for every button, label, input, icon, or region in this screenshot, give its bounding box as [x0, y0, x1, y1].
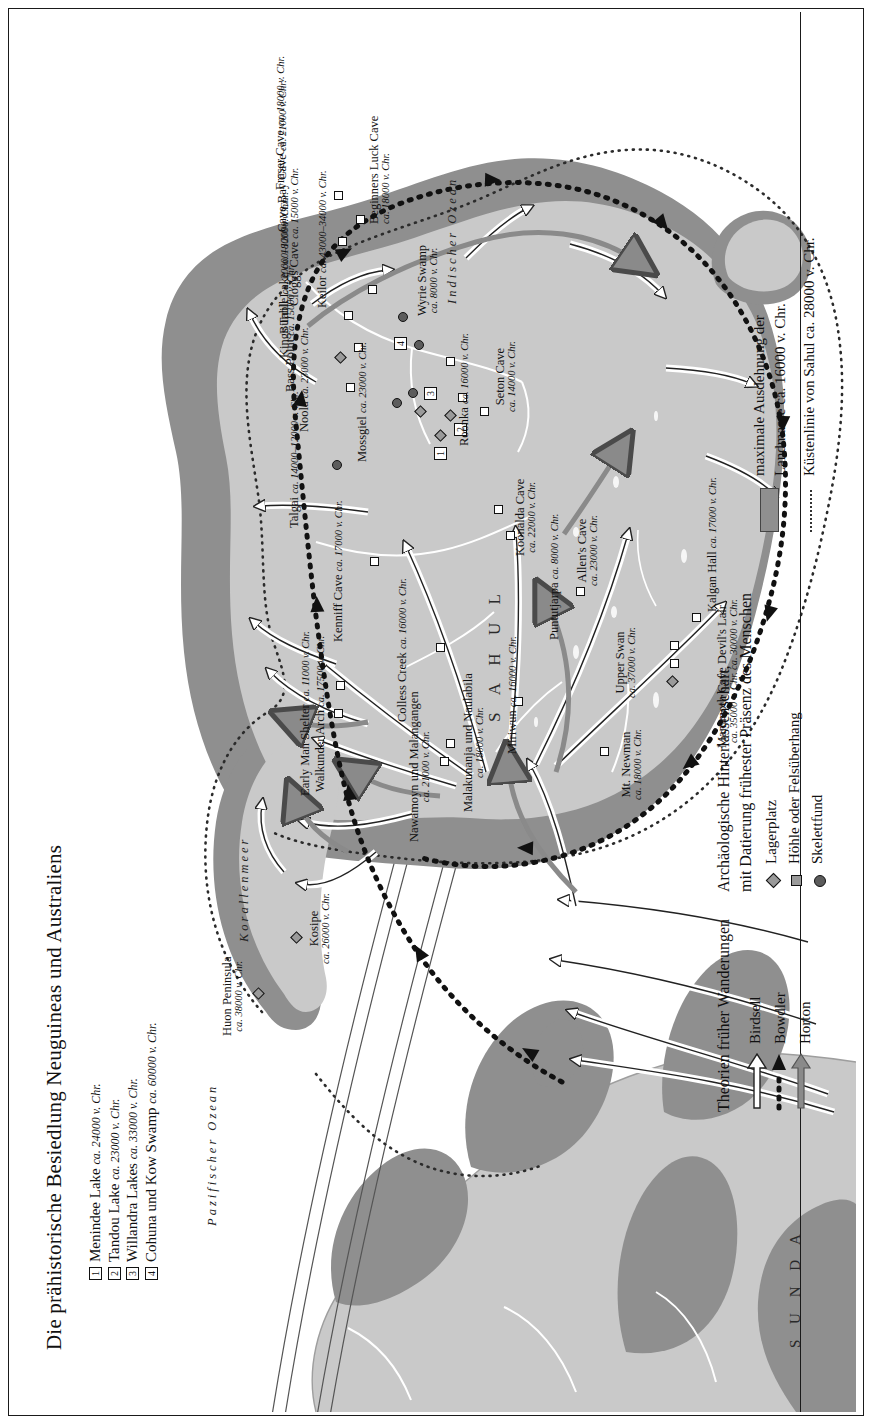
site-label-puntutjarpa: Puntutjarpa ca. 8000 v. Chr. [548, 514, 561, 640]
site-label-cloggs-cave: Cloggs Cave ca. 15000 v. Chr. [288, 168, 301, 306]
site-label-kalgan-hall: Kalgan Hall ca. 17000 v. Chr. [706, 477, 719, 612]
legend-label-coastline: Küstenlinie von Sahul ca. 28000 v. Chr. [802, 237, 818, 476]
site-marker-koonalda-cave[interactable] [494, 505, 503, 514]
legend-heading-finds-line1: Archäologische Hinterlassenschaft, [716, 665, 733, 892]
numbered-site-list: 1Menindee Lake ca. 24000 v. Chr. 2Tandou… [88, 1023, 159, 1280]
site-label-mossgiel: Mossgiel ca. 23000 v. Chr. [356, 342, 369, 462]
site-number-box: 3 [126, 1267, 139, 1280]
label-pacific-ocean: Pazifischer Ozean [206, 1084, 219, 1226]
site-label-roonka: Roonka ca. 16000 v. Chr. [458, 333, 471, 446]
site-marker-mossgiel[interactable] [392, 398, 402, 408]
site-number-box: 2 [108, 1267, 121, 1280]
site-marker-mt-newman[interactable] [600, 747, 609, 756]
site-number-box: 4 [145, 1267, 158, 1280]
site-marker-noola[interactable] [346, 383, 355, 392]
map-page: Die prähistorische Besiedlung Neuguineas… [0, 0, 872, 1424]
site-marker-cloggs-cave[interactable] [368, 285, 377, 294]
site-label-noola: Noola ca. 23000 v. Chr. [298, 327, 311, 432]
site-label-upper-swan: Upper Swanca. 37000 v. Chr. [614, 627, 638, 698]
numbered-list-item: 1Menindee Lake ca. 24000 v. Chr. [88, 1023, 104, 1280]
white-arrow-icon [748, 1054, 766, 1108]
site-marker-burrill-lake[interactable] [344, 311, 353, 320]
site-label-colless-creek: Colless Creek ca. 16000 v. Chr. [396, 578, 409, 722]
legend-square-marker-icon [791, 875, 802, 886]
site-label-beginners-luck-cave: Beginners Luck Caveca. 18000 v. Chr. [368, 116, 392, 224]
legend-label-birdsell: Birdsell [748, 997, 764, 1045]
site-marker-nawamoyn[interactable] [440, 757, 449, 766]
map-stage: Die prähistorische Besiedlung Neuguineas… [16, 12, 856, 1412]
site-marker-fraser-cave[interactable] [334, 191, 343, 200]
site-number-marker-1[interactable]: 1 [434, 447, 447, 460]
site-marker-keilor[interactable] [398, 312, 408, 322]
site-label-koonalda-cave: Koonalda Caveca. 22000 v. Chr. [514, 479, 538, 556]
legend-label-lagerplatz: Lagerplatz [764, 800, 780, 864]
page-title: Die prähistorische Besiedlung Neuguineas… [44, 845, 66, 1350]
legend-label-bowdler: Bowdler [773, 992, 789, 1044]
legend-heading-migration: Theorien früher Wanderungen [716, 919, 733, 1112]
site-marker-walkunder-arch[interactable] [336, 681, 345, 690]
legend-heading-finds-line2: mit Datierung frühester Präsenz des Mens… [738, 593, 755, 892]
site-marker-cave-bay-cave[interactable] [338, 237, 347, 246]
numbered-list-item: 4Cohuna und Kow Swamp ca. 60000 v. Chr. [144, 1023, 160, 1280]
site-marker-talgai[interactable] [332, 460, 342, 470]
site-marker-beginners-luck-cave[interactable] [356, 215, 365, 224]
numbered-list-item: 3Willandra Lakes ca. 33000 v. Chr. [125, 1023, 141, 1280]
site-label-fraser-cave: Fraser Cave ca. 18000 v. Chr. [274, 56, 287, 190]
site-label-huon-peninsula: Huon Peninsulaca. 38000 v. Chr. [221, 956, 245, 1036]
legend-circle-marker-icon [814, 875, 826, 887]
site-marker-puntutjarpa[interactable] [576, 587, 585, 596]
legend-label-skelettfund: Skelettfund [810, 795, 826, 864]
site-number-marker-4[interactable]: 4 [394, 337, 407, 350]
site-marker-cohuna-kow-swamp[interactable] [414, 340, 424, 350]
legend-label-landmass-line1: maximale Ausdehnung der [752, 315, 768, 476]
site-label-mt-newman: Mt. Newmanca. 18000 v. Chr. [620, 729, 644, 800]
site-label-walkunder-arch: Walkunder Arch ca. 17500 v. Chr. [314, 636, 327, 792]
legend-coastline-dots-icon [810, 490, 812, 532]
site-marker-wyrie-swamp[interactable] [446, 357, 455, 366]
site-number-box: 1 [89, 1267, 102, 1280]
site-label-allens-cave: Allen's Caveca. 23000 v. Chr. [576, 515, 600, 586]
site-marker-early-man-shelter[interactable] [334, 709, 343, 718]
label-coral-sea: Korallenmeer [238, 837, 251, 942]
label-indian-ocean: Indischer Ozean [446, 177, 459, 304]
site-marker-willandra-lakes-skeleton[interactable] [408, 388, 418, 398]
site-marker-seton-cave[interactable] [480, 407, 489, 416]
site-label-wyrie-swamp: Wyrie Swampca. 8000 v. Chr. [416, 245, 440, 316]
site-label-nawamoyn-malangangen: Nawamoyn und Malangangenca. 21000 v. Chr… [408, 691, 432, 842]
legend-landmass-swatch [760, 488, 779, 532]
site-marker-malakunanja[interactable] [446, 739, 455, 748]
legend-panel [812, 38, 856, 1378]
site-marker-devils-lair[interactable] [670, 641, 679, 650]
site-label-malakunanja-naulabila: Malakunanja und Naulabilaca. 18000 v. Ch… [462, 673, 486, 812]
site-marker-kalgan-hall[interactable] [692, 613, 701, 622]
legend-label-hoehle: Höhle oder Felsüberhang [787, 712, 803, 864]
site-marker-kenniff-cave[interactable] [370, 557, 379, 566]
gray-arrow-icon [792, 1054, 810, 1108]
site-label-early-man-shelter: Early Man Shelter ca. 11000 v. Chr. [299, 631, 312, 796]
site-marker-allens-cave[interactable] [506, 531, 515, 540]
numbered-list-item: 2Tandou Lake ca. 23000 v. Chr. [107, 1023, 123, 1280]
site-label-kenniff-cave: Kenniff Cave ca. 17000 v. Chr. [332, 500, 345, 642]
label-sahul: S A H U L [486, 587, 504, 722]
site-label-seton-cave: Seton Caveca. 14000 v. Chr. [494, 341, 518, 412]
site-label-miriwun: Miriwun ca. 16000 v. Chr. [506, 636, 519, 754]
legend-label-horton: Horton [798, 1002, 814, 1045]
site-number-marker-3[interactable]: 3 [424, 387, 437, 400]
legend-label-landmass-line2: Landmasse ca. 16000 v. Chr. [773, 303, 789, 476]
site-label-keilor: Keilor ca. 43000–34000 v. Chr. [316, 170, 329, 308]
site-label-kosipe: Kosipeca. 26000 v. Chr. [308, 893, 332, 964]
site-marker-colless-creek[interactable] [436, 643, 445, 652]
site-marker-mammoth-cave[interactable] [670, 659, 679, 668]
